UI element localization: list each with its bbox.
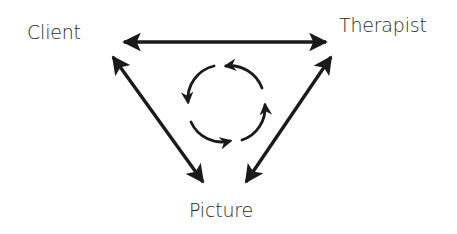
cycle-arrow-1 bbox=[188, 66, 214, 102]
cycle-arrow-4 bbox=[226, 66, 262, 88]
cycle-arrow-2 bbox=[191, 122, 230, 142]
cycle-icon bbox=[188, 66, 265, 142]
cycle-arrow-3 bbox=[242, 105, 265, 140]
edge-therapist-picture bbox=[246, 57, 331, 182]
diagram-canvas bbox=[0, 0, 457, 234]
edge-client-picture bbox=[113, 57, 203, 182]
